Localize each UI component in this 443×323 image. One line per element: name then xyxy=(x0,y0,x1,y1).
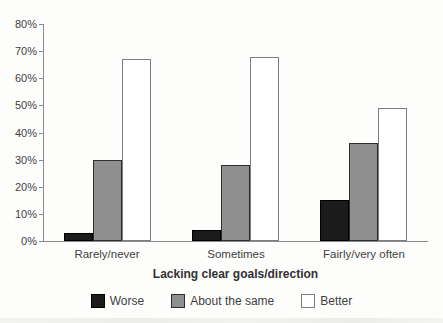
y-tick-label: 20% xyxy=(3,181,37,193)
y-tick-label: 40% xyxy=(3,127,37,139)
bar-about-the-same xyxy=(93,160,122,241)
x-axis-line xyxy=(39,241,428,242)
x-category-label: Rarely/never xyxy=(42,248,172,260)
y-tick-label: 70% xyxy=(3,45,37,57)
y-axis-tick xyxy=(39,187,43,188)
y-axis-tick xyxy=(39,160,43,161)
bar-better xyxy=(250,57,279,241)
legend-label: Better xyxy=(320,294,352,308)
scan-artifact-strip xyxy=(0,318,443,323)
y-tick-label: 10% xyxy=(3,208,37,220)
x-axis-title: Lacking clear goals/direction xyxy=(43,267,428,281)
y-tick-label: 30% xyxy=(3,154,37,166)
y-axis-tick xyxy=(39,241,43,242)
y-axis-line xyxy=(43,24,44,242)
bar-worse xyxy=(320,200,349,241)
y-axis-tick xyxy=(39,78,43,79)
legend: WorseAbout the sameBetter xyxy=(0,294,443,308)
x-category-label: Sometimes xyxy=(171,248,301,260)
legend-swatch xyxy=(301,294,315,308)
legend-item-better: Better xyxy=(301,294,352,308)
bar-about-the-same xyxy=(349,143,378,241)
bar-better xyxy=(378,108,407,241)
y-axis-tick xyxy=(39,133,43,134)
legend-swatch xyxy=(91,294,105,308)
y-tick-label: 50% xyxy=(3,99,37,111)
y-tick-label: 80% xyxy=(3,18,37,30)
y-tick-label: 0% xyxy=(3,235,37,247)
legend-item-about-the-same: About the same xyxy=(171,294,274,308)
bar-about-the-same xyxy=(221,165,250,241)
bar-worse xyxy=(192,230,221,241)
y-axis-tick xyxy=(39,51,43,52)
legend-swatch xyxy=(171,294,185,308)
y-tick-label: 60% xyxy=(3,72,37,84)
y-axis-tick xyxy=(39,24,43,25)
legend-item-worse: Worse xyxy=(91,294,144,308)
x-category-label: Fairly/very often xyxy=(299,248,429,260)
y-axis-tick xyxy=(39,105,43,106)
bar-better xyxy=(122,59,151,241)
legend-label: About the same xyxy=(190,294,274,308)
legend-label: Worse xyxy=(110,294,144,308)
bar-chart-figure: 0%10%20%30%40%50%60%70%80%Rarely/neverSo… xyxy=(0,0,443,323)
y-axis-tick xyxy=(39,214,43,215)
bar-worse xyxy=(64,233,93,241)
